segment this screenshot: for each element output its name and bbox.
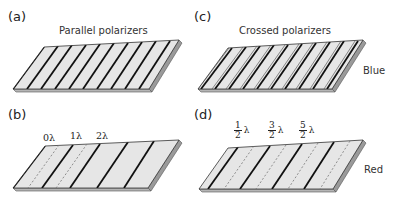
color-label-blue: Blue	[363, 66, 385, 76]
retardation-label-0: 0λ	[43, 133, 55, 143]
panel-label-b: (b)	[8, 108, 26, 121]
wedge-b	[13, 140, 182, 191]
title-crossed-polarizers: Crossed polarizers	[239, 26, 331, 36]
panel-label-a: (a)	[8, 10, 26, 23]
retardation-label-three-halves: 32λ	[268, 121, 283, 140]
title-parallel-polarizers: Parallel polarizers	[59, 26, 148, 36]
wedge-d	[199, 140, 366, 192]
wedge-c	[198, 40, 366, 92]
figure: (a) (b) (c) (d) Parallel polarizers Cros…	[0, 0, 396, 198]
retardation-label-2: 2λ	[96, 131, 108, 141]
retardation-label-1: 1λ	[70, 131, 82, 141]
retardation-label-five-halves: 52λ	[299, 121, 314, 140]
panel-label-c: (c)	[194, 10, 211, 23]
color-label-red: Red	[364, 165, 383, 175]
wedge-a	[13, 40, 182, 92]
retardation-label-half: 12λ	[234, 121, 249, 140]
panel-label-d: (d)	[194, 108, 212, 121]
